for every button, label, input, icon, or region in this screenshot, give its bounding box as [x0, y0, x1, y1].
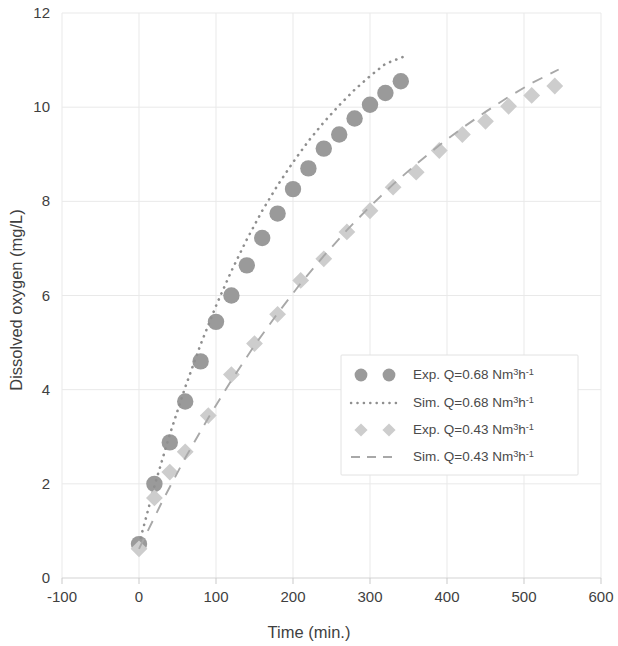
axes-group [62, 578, 601, 584]
data-point-circle [285, 181, 301, 197]
x-tick-label: 400 [434, 588, 459, 605]
chart-container: -1000100200300400500600024681012 Exp. Q=… [0, 0, 618, 646]
data-point-circle [377, 85, 393, 101]
data-point-circle [208, 314, 224, 330]
dissolved-oxygen-scatter-chart: -1000100200300400500600024681012 Exp. Q=… [0, 0, 618, 646]
y-tick-label: 6 [42, 287, 50, 304]
data-point-circle [223, 287, 239, 303]
x-axis-label: Time (min.) [268, 623, 351, 641]
data-point-circle [269, 205, 285, 221]
y-tick-label: 0 [42, 569, 50, 586]
data-point-circle [239, 257, 255, 273]
x-tick-label: 600 [588, 588, 613, 605]
series-markers-0 [131, 73, 409, 552]
data-point-circle [362, 97, 378, 113]
legend-marker-circle-icon [355, 369, 368, 382]
data-point-circle [331, 126, 347, 142]
data-point-diamond [385, 179, 402, 196]
data-point-circle [177, 393, 193, 409]
x-tick-label: 500 [511, 588, 536, 605]
data-point-circle [346, 110, 362, 126]
y-tick-label: 4 [42, 381, 50, 398]
series-group [131, 56, 564, 557]
data-point-diamond [523, 87, 540, 104]
data-point-diamond [546, 78, 563, 95]
y-tick-label: 12 [33, 4, 50, 21]
series-markers-2 [131, 78, 564, 558]
y-axis-label: Dissolved oxygen (mg/L) [7, 209, 25, 391]
data-point-diamond [315, 250, 332, 267]
x-tick-label: 0 [135, 588, 143, 605]
data-point-diamond [200, 407, 217, 424]
x-tick-label: -100 [47, 588, 77, 605]
data-point-circle [254, 230, 270, 246]
data-point-diamond [339, 224, 356, 241]
x-tick-label: 100 [203, 588, 228, 605]
data-point-diamond [161, 464, 178, 481]
gridlines-group [62, 13, 601, 578]
data-point-diamond [454, 126, 471, 143]
x-tick-label: 300 [357, 588, 382, 605]
data-point-circle [393, 73, 409, 89]
data-point-circle [300, 160, 316, 176]
y-tick-label: 10 [33, 98, 50, 115]
y-tick-label: 8 [42, 192, 50, 209]
data-point-circle [316, 140, 332, 156]
data-point-diamond [223, 366, 240, 383]
data-point-diamond [362, 202, 379, 219]
legend-marker-circle-icon [383, 369, 396, 382]
series-line-3 [139, 70, 559, 549]
y-tick-label: 2 [42, 475, 50, 492]
data-point-diamond [292, 272, 309, 289]
x-tick-label: 200 [280, 588, 305, 605]
data-point-diamond [477, 113, 494, 130]
legend-group[interactable]: Exp. Q=0.68 Nm3h-1Sim. Q=0.68 Nm3h-1Exp.… [341, 355, 578, 475]
sim-curve-dashed [139, 70, 559, 549]
data-point-diamond [408, 164, 425, 181]
